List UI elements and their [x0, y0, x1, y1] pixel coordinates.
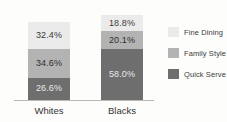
- bar-segment-whites-quick-serve[interactable]: 26.6%: [28, 78, 70, 100]
- legend-label-family-style: Family Style: [184, 49, 226, 58]
- legend-item-fine-dining[interactable]: Fine Dining: [168, 27, 226, 37]
- legend-item-quick-serve[interactable]: Quick Serve: [168, 69, 226, 79]
- legend-label-fine-dining: Fine Dining: [184, 28, 223, 37]
- bar-segment-whites-family-style[interactable]: 34.6%: [28, 49, 70, 78]
- category-label-blacks: Blacks: [108, 105, 136, 116]
- bar-group-whites: 32.4% 34.6% 26.6% Whites: [28, 22, 70, 100]
- stacked-bar-whites[interactable]: 32.4% 34.6% 26.6%: [28, 22, 70, 100]
- stacked-bar-chart: 32.4% 34.6% 26.6% Whites 18.8% 20.1% 58.…: [0, 0, 227, 122]
- category-label-whites: Whites: [34, 105, 63, 116]
- segment-value-label: 18.8%: [109, 19, 135, 28]
- bar-segment-blacks-family-style[interactable]: 20.1%: [101, 31, 143, 49]
- legend-label-quick-serve: Quick Serve: [184, 70, 226, 79]
- segment-value-label: 58.0%: [109, 70, 135, 79]
- segment-value-label: 26.6%: [36, 84, 62, 93]
- bar-segment-blacks-quick-serve[interactable]: 58.0%: [101, 49, 143, 100]
- chart-legend: Fine Dining Family Style Quick Serve: [168, 27, 226, 79]
- axis-baseline: [14, 100, 154, 101]
- legend-swatch-quick-serve: [168, 69, 179, 79]
- legend-item-family-style[interactable]: Family Style: [168, 48, 226, 58]
- segment-value-label: 34.6%: [36, 59, 62, 68]
- segment-value-label: 32.4%: [36, 31, 62, 40]
- bar-segment-blacks-fine-dining[interactable]: 18.8%: [101, 15, 143, 31]
- bar-segment-whites-fine-dining[interactable]: 32.4%: [28, 22, 70, 49]
- segment-value-label: 20.1%: [109, 36, 135, 45]
- legend-swatch-fine-dining: [168, 27, 179, 37]
- legend-swatch-family-style: [168, 48, 179, 58]
- bar-group-blacks: 18.8% 20.1% 58.0% Blacks: [101, 15, 143, 100]
- stacked-bar-blacks[interactable]: 18.8% 20.1% 58.0%: [101, 15, 143, 100]
